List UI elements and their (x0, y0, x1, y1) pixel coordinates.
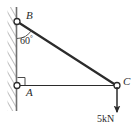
joint-label-c: C (123, 76, 130, 87)
joint-label-a: A (26, 87, 33, 98)
statics-diagram-figure: B A C 60° 5kN (0, 0, 138, 135)
angle-value: 60 (20, 35, 30, 46)
member-bc (17, 22, 117, 86)
diagram-canvas (0, 0, 138, 135)
joint-a-pin (14, 83, 20, 89)
joint-label-b: B (26, 10, 33, 21)
load-label-5kn: 5kN (97, 114, 114, 124)
joint-b-pin (14, 19, 20, 25)
angle-label-60deg: 60° (20, 35, 33, 46)
degree-symbol: ° (30, 34, 33, 42)
